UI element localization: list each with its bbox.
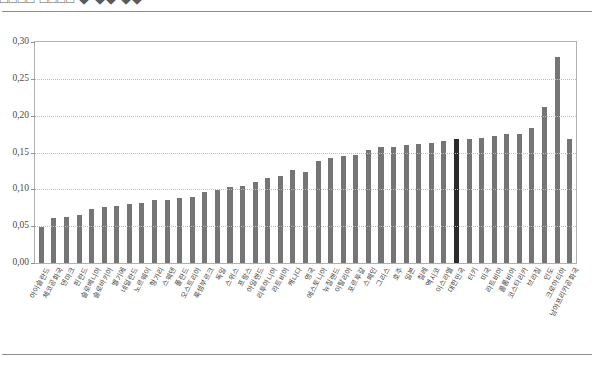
gridline: [35, 79, 576, 80]
bar: [479, 138, 484, 263]
bar: [139, 203, 144, 263]
bar: [253, 182, 258, 263]
bar: [467, 139, 472, 263]
bar: [303, 172, 308, 263]
bar: [114, 206, 119, 263]
y-tick-label: 0,20: [12, 110, 29, 120]
plot-area: [34, 41, 577, 264]
y-tick-label: 0,30: [12, 36, 29, 46]
bar: [391, 147, 396, 263]
y-tick-label: 0,00: [12, 257, 29, 267]
bar: [89, 209, 94, 264]
bar: [165, 200, 170, 263]
y-tick-mark: [31, 153, 35, 154]
top-caption: □□□□ □□□□ ◆ ◆◆ ◆◆: [0, 0, 594, 9]
y-tick-label: 0,10: [12, 183, 29, 193]
bar: [567, 139, 572, 263]
bar: [429, 143, 434, 263]
bottom-divider: [2, 354, 592, 355]
bar: [152, 200, 157, 263]
bar: [316, 161, 321, 263]
y-tick-label: 0,25: [12, 73, 29, 83]
y-tick-label: 0,05: [12, 220, 29, 230]
y-tick-mark: [31, 189, 35, 190]
bar: [177, 198, 182, 263]
bar: [190, 197, 195, 263]
gridline: [35, 226, 576, 227]
bar: [51, 218, 56, 263]
bar: [127, 204, 132, 263]
bar: [542, 107, 547, 263]
x-tick-label: 일본: [402, 265, 417, 282]
bar: [404, 145, 409, 263]
bar: [441, 141, 446, 263]
y-tick-mark: [31, 42, 35, 43]
bar: [39, 227, 44, 263]
y-tick-mark: [31, 263, 35, 264]
y-tick-mark: [31, 226, 35, 227]
y-tick-mark: [31, 79, 35, 80]
bar: [529, 128, 534, 263]
chart-page: □□□□ □□□□ ◆ ◆◆ ◆◆ 0,000,050,100,150,200,…: [0, 0, 594, 371]
gridline: [35, 153, 576, 154]
gridline: [35, 189, 576, 190]
bar: [555, 57, 560, 263]
top-divider: [2, 11, 592, 12]
bar: [265, 178, 270, 263]
bar: [240, 186, 245, 263]
bar: [227, 187, 232, 263]
bar: [290, 170, 295, 263]
x-tick-label: 터키: [465, 265, 480, 282]
y-axis-labels: 0,000,050,100,150,200,250,30: [0, 41, 34, 264]
bar: [454, 139, 459, 263]
bar: [416, 144, 421, 263]
bar: [77, 215, 82, 263]
bar: [366, 150, 371, 263]
bar: [328, 158, 333, 263]
gridline: [35, 116, 576, 117]
bar: [64, 217, 69, 263]
bar: [353, 155, 358, 263]
y-tick-label: 0,15: [12, 147, 29, 157]
y-tick-mark: [31, 116, 35, 117]
bar: [341, 156, 346, 263]
bar: [378, 147, 383, 263]
bar: [492, 136, 497, 263]
bar: [102, 207, 107, 263]
bar: [202, 192, 207, 263]
x-axis-labels: 아이슬란드체코공화국덴마크핀란드슬로베니아슬로바키아벨기에네덜란드노르웨이헝가리…: [34, 265, 577, 353]
